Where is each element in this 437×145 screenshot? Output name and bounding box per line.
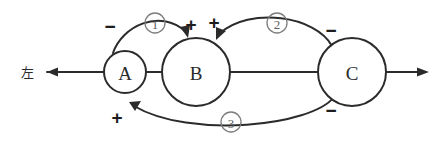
sign-loop2-target: + [208,12,219,33]
right-exit-arrowhead [417,68,429,77]
sign-loop2-source: − [325,20,336,41]
sign-loop3-target: + [111,107,122,128]
loop-marker-2-label: 2 [274,17,281,32]
node-c[interactable]: C [318,38,386,106]
node-a[interactable]: A [104,51,146,93]
node-b[interactable]: B [162,38,230,106]
loop-marker-1-label: 1 [152,17,159,32]
node-c-label: C [346,63,359,84]
loop-marker-2: 2 [267,13,287,33]
diagram-canvas: A B C 1 2 3 − + + − + − 左 [0,0,437,145]
loop-marker-3-label: 3 [228,116,235,131]
left-exit-label: 左 [21,65,34,80]
node-a-label: A [118,63,132,84]
node-b-label: B [190,63,203,84]
loop-marker-1: 1 [145,13,165,33]
sign-loop1-source: − [104,16,115,37]
left-exit-arrowhead [47,68,58,77]
loop-marker-3: 3 [221,112,241,132]
sign-loop3-source: − [325,100,336,121]
diagram-svg: A B C 1 2 3 − + + − + − 左 [0,0,437,145]
sign-loop1-target: + [185,14,196,35]
